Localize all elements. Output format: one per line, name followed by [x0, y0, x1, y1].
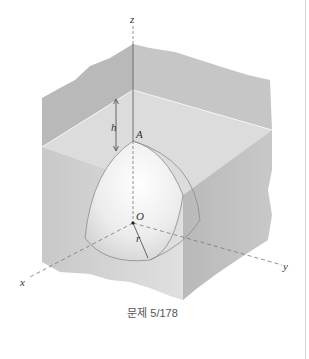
z-axis-label: z: [129, 13, 135, 25]
origin-label: O: [136, 210, 144, 222]
x-axis-label: x: [19, 276, 25, 288]
figure-caption: 문제 5/178: [0, 304, 305, 320]
column-divider: [305, 0, 306, 359]
radius-label: r: [136, 232, 141, 244]
y-axis-label: y: [282, 260, 288, 272]
hemisphere-cavity-diagram: z x y O r A h: [0, 0, 305, 300]
height-label: h: [111, 121, 117, 133]
point-A-label: A: [135, 128, 143, 140]
